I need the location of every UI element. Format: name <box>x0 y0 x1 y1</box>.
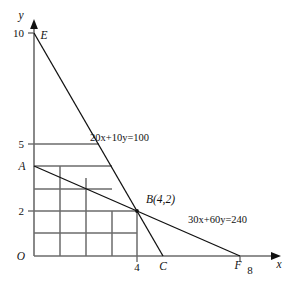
point-label-f: F <box>233 259 242 271</box>
y-tick-label-2: 2 <box>19 205 25 217</box>
y-tick-label-10: 10 <box>13 27 25 39</box>
graph-canvas: y x O 10 5 2 4 8 E A B(4,2) C F 20x+10y=… <box>0 0 290 283</box>
origin-label: O <box>17 250 26 262</box>
point-label-c: C <box>159 260 167 272</box>
point-label-e: E <box>39 29 47 41</box>
y-axis-label: y <box>17 9 24 22</box>
y-tick-label-5: 5 <box>19 138 25 150</box>
equation-label-30x60y240: 30x+60y=240 <box>188 214 247 225</box>
x-tick-label-4: 4 <box>134 261 140 273</box>
math-figure: y x O 10 5 2 4 8 E A B(4,2) C F 20x+10y=… <box>0 0 290 283</box>
intersection-point-b <box>135 209 139 213</box>
y-axis-arrow <box>30 19 38 29</box>
equation-label-20x10y100: 20x+10y=100 <box>90 132 149 143</box>
point-label-a: A <box>17 160 26 172</box>
point-label-b: B(4,2) <box>146 193 175 206</box>
x-tick-label-8: 8 <box>247 264 253 276</box>
x-axis-label: x <box>275 258 282 270</box>
